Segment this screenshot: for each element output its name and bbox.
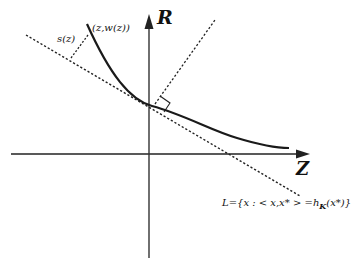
supporting-line-L	[26, 35, 300, 196]
diagram-canvas	[0, 0, 353, 268]
line-L-main: L={x : < x,x* > =h	[222, 197, 319, 208]
r-axis-arrow-icon	[145, 14, 154, 29]
z-axis-label: Z	[296, 158, 309, 179]
line-L-tail: (x*)}	[326, 197, 351, 208]
normal-line	[155, 20, 215, 104]
r-axis-label: R	[157, 6, 173, 28]
point-label: (z,w(z))	[92, 22, 130, 33]
line-L-label: L={x : < x,x* > =hK(x*)}	[222, 197, 351, 211]
distance-label: s(z)	[57, 33, 75, 44]
convex-curve	[87, 24, 289, 148]
